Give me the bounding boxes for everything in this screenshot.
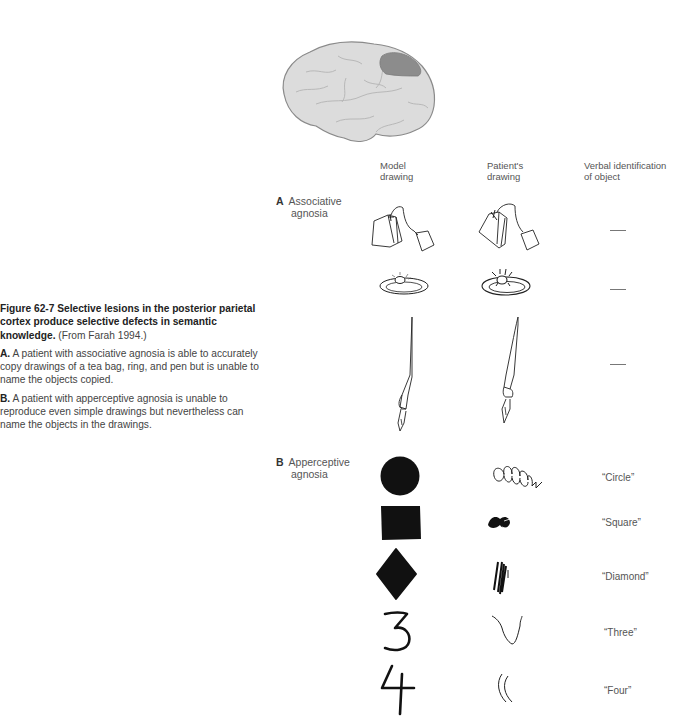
diamond-patient-drawing (490, 560, 510, 596)
teabag-patient-drawing (475, 200, 547, 264)
part-b-text: A patient with apperceptive agnosia is u… (0, 393, 244, 431)
ring-patient-drawing (480, 266, 534, 300)
verbal-dash-ring (610, 289, 626, 290)
three-patient-drawing (490, 614, 526, 648)
pen-patient-drawing (492, 315, 532, 430)
teabag-model-drawing (368, 203, 440, 263)
part-a-label: A. (0, 348, 10, 359)
verbal-four: “Four” (604, 685, 631, 696)
ring-model-drawing (378, 270, 432, 298)
circle-patient-drawing (490, 462, 542, 494)
square-patient-drawing (486, 513, 516, 533)
column-header-model: Model drawing (380, 160, 413, 182)
column-header-verbal: Verbal identification of object (584, 160, 666, 182)
verbal-diamond: “Diamond” (602, 571, 649, 582)
figure-caption: Figure 62-7 Selective lesions in the pos… (0, 302, 260, 437)
verbal-square: “Square” (602, 517, 641, 528)
pen-model-drawing (388, 315, 428, 435)
part-b-label: B. (0, 393, 10, 404)
verbal-dash-pen (610, 364, 626, 365)
figure-source: (From Farah 1994.) (58, 330, 146, 341)
part-a-text: A patient with associative agnosia is ab… (0, 348, 259, 386)
circle-model-drawing (380, 456, 420, 496)
brain-illustration-icon (276, 32, 441, 142)
section-b-label: BApperceptive agnosia (276, 456, 350, 480)
four-patient-drawing (494, 672, 516, 704)
verbal-circle: “Circle” (602, 472, 634, 483)
four-model-drawing (378, 664, 418, 720)
three-model-drawing (381, 610, 413, 654)
square-model-drawing (380, 505, 422, 541)
column-header-patient: Patient's drawing (487, 160, 523, 182)
verbal-three: “Three” (604, 627, 637, 638)
figure-label: Figure 62-7 (0, 303, 54, 314)
verbal-dash-teabag (610, 230, 626, 231)
section-a-label: AAssociative agnosia (276, 195, 342, 219)
diamond-model-drawing (376, 548, 418, 600)
